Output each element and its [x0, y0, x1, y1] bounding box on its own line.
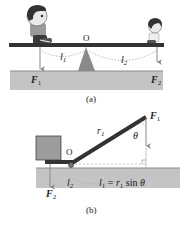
caption-a: (a) [86, 94, 96, 104]
arm-label-l2: l2 [121, 54, 128, 67]
seesaw-plank [9, 43, 164, 47]
box-load [36, 136, 61, 160]
right-angle-mark [142, 160, 146, 164]
pivot-pin [69, 163, 74, 168]
theta-label: θ [133, 130, 138, 141]
lever-diagram: O l1 l2 F1 F2 (a) O [0, 0, 185, 226]
child-left-figure [27, 5, 52, 44]
pivot-label-a: O [83, 33, 90, 43]
force-label-f2-b: F2 [45, 188, 57, 201]
panel-b: O F1 r1 θ l2 l1 = r1 sin θ F2 (b) [36, 110, 180, 215]
pivot-label-b: O [66, 147, 73, 157]
panel-a: O l1 l2 F1 F2 (a) [9, 5, 164, 104]
fulcrum-triangle [78, 47, 95, 71]
caption-b: (b) [86, 205, 97, 215]
arm-label-l1: l1 [60, 51, 66, 64]
child-right-figure [147, 18, 162, 44]
force-label-f1-b: F1 [149, 110, 161, 123]
radius-label-r1: r1 [97, 125, 104, 138]
